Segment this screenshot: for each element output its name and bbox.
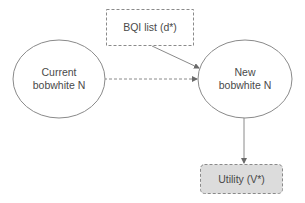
new-n-label-line2: bobwhite N — [219, 79, 272, 91]
node-utility[interactable]: Utility (V*) — [201, 165, 283, 194]
current-n-label-line2: bobwhite N — [33, 79, 86, 91]
bqi-list-label: BQI list (d*) — [123, 21, 177, 33]
node-new-bobwhite-n[interactable]: New bobwhite N — [198, 40, 292, 118]
node-bqi-list[interactable]: BQI list (d*) — [107, 10, 194, 46]
current-n-label-line1: Current — [41, 66, 76, 78]
new-n-label-line1: New — [234, 66, 255, 78]
influence-diagram: BQI list (d*) Current bobwhite N New bob… — [0, 0, 305, 203]
node-current-bobwhite-n[interactable]: Current bobwhite N — [13, 40, 105, 118]
utility-label: Utility (V*) — [218, 173, 265, 185]
edge-bqi-to-new — [152, 46, 199, 68]
